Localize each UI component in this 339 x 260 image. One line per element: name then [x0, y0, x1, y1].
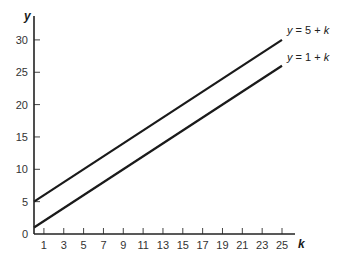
- x-tick-label: 5: [81, 239, 87, 251]
- y-tick-label: 10: [16, 163, 28, 175]
- x-tick-label: 17: [197, 239, 209, 251]
- y-tick-label: 5: [22, 196, 28, 208]
- line-chart: 051015202530 135791113151719212325 y k y…: [0, 0, 339, 260]
- x-tick-label: 7: [100, 239, 106, 251]
- x-tick-label: 25: [276, 239, 288, 251]
- line-label-top: y = 5 + k: [286, 24, 330, 36]
- series-line-1: [34, 66, 282, 228]
- y-tick-label: 15: [16, 131, 28, 143]
- x-tick-label: 21: [236, 239, 248, 251]
- x-tick-label: 11: [137, 239, 148, 251]
- y-axis-ticks: 051015202530: [16, 34, 40, 240]
- x-axis-label: k: [298, 237, 306, 251]
- y-tick-label: 25: [16, 66, 28, 78]
- x-tick-label: 19: [216, 239, 228, 251]
- y-axis-label: y: [23, 9, 32, 23]
- x-axis-ticks: 135791113151719212325: [41, 228, 288, 251]
- x-tick-label: 15: [177, 239, 189, 251]
- series-lines: [34, 40, 282, 228]
- y-tick-label: 0: [22, 228, 28, 240]
- x-tick-label: 9: [120, 239, 126, 251]
- x-tick-label: 3: [61, 239, 67, 251]
- series-line-0: [34, 40, 282, 202]
- y-tick-label: 30: [16, 34, 28, 46]
- y-tick-label: 20: [16, 99, 28, 111]
- x-tick-label: 13: [157, 239, 169, 251]
- line-label-bottom: y = 1 + k: [286, 51, 330, 63]
- x-tick-label: 1: [41, 239, 47, 251]
- x-tick-label: 23: [256, 239, 268, 251]
